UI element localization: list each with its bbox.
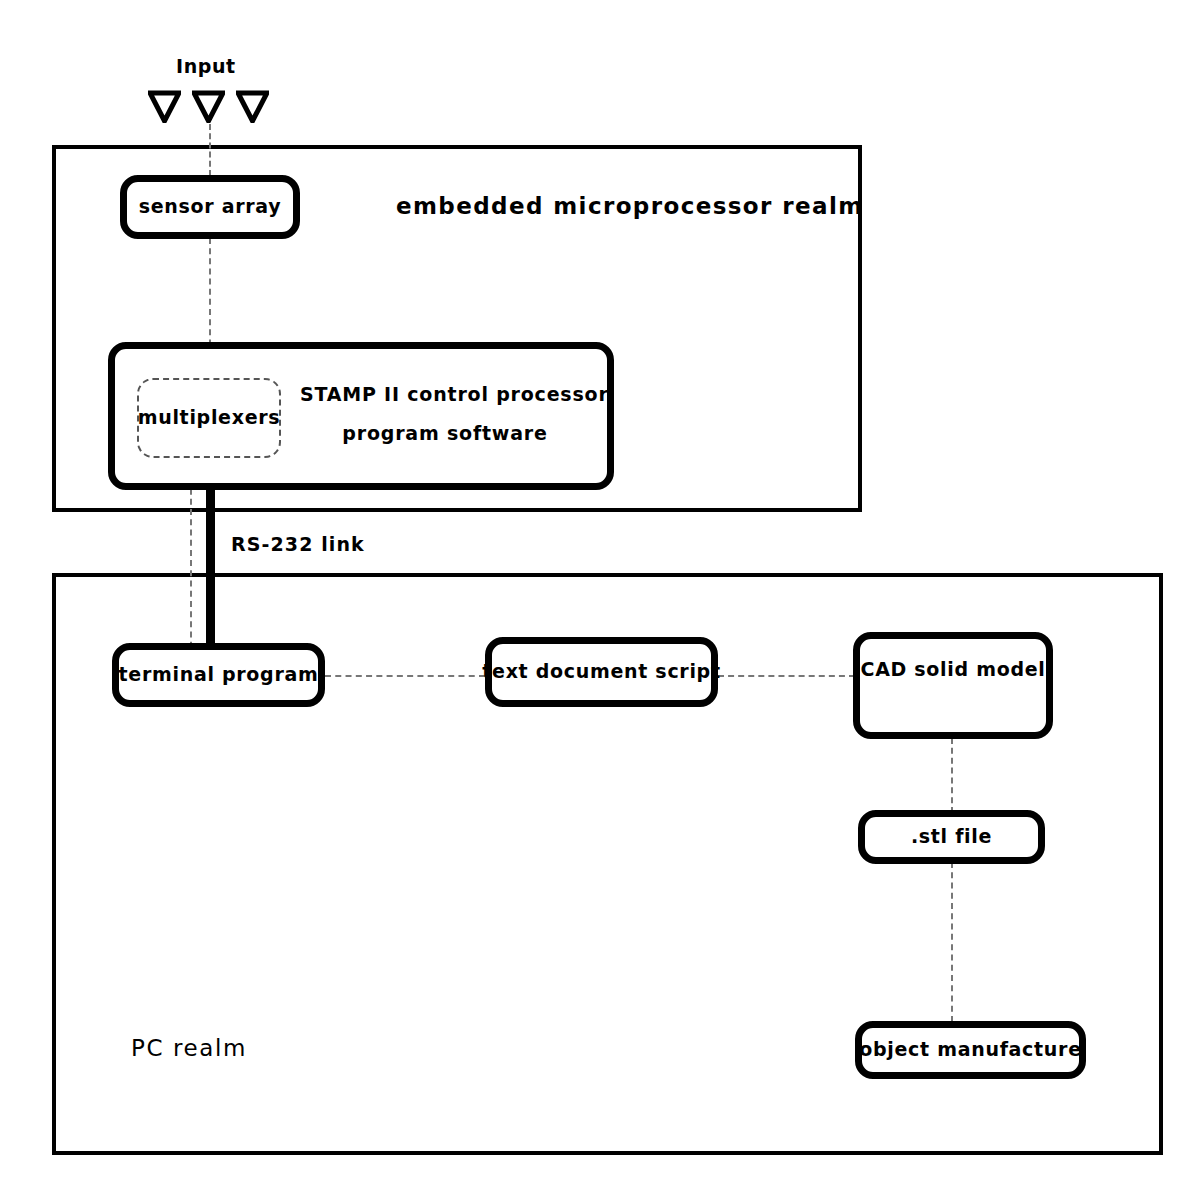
node-text-document-script-label: text document script	[482, 657, 720, 686]
node-object-manufacture-label: object manufacture	[859, 1035, 1082, 1064]
node-sensor-array[interactable]: sensor array	[120, 175, 300, 239]
node-multiplexers-label: multiplexers	[138, 403, 281, 432]
pc-realm-title: PC realm	[131, 1035, 247, 1061]
node-object-manufacture[interactable]: object manufacture	[855, 1021, 1086, 1079]
node-cad-solid-model[interactable]: CAD solid model	[853, 632, 1053, 739]
embedded-realm-title: embedded microprocessor realm	[396, 193, 864, 219]
connector-stl-to-manufacture	[951, 862, 953, 1022]
connector-terminal-to-script	[325, 675, 485, 677]
triangle-down-icon	[192, 90, 225, 123]
rs232-link-label: RS-232 link	[231, 533, 365, 555]
node-terminal-program[interactable]: terminal program	[112, 643, 325, 707]
triangle-down-icon	[236, 90, 269, 123]
stamp-line-2: program software	[300, 414, 590, 453]
rs232-link-line	[206, 488, 215, 660]
node-cad-solid-model-label: CAD solid model	[861, 655, 1046, 684]
input-marker-group	[148, 90, 269, 123]
node-text-document-script[interactable]: text document script	[485, 637, 718, 707]
diagram-canvas: Input embedded microprocessor realm sens…	[0, 0, 1204, 1195]
node-sensor-array-label: sensor array	[139, 192, 282, 221]
input-label: Input	[176, 55, 236, 77]
node-stl-file[interactable]: .stl file	[858, 810, 1045, 864]
stamp-line-1: STAMP II control processor	[300, 375, 590, 414]
stamp-processor-text: STAMP II control processor program softw…	[300, 375, 590, 453]
connector-script-to-cad	[718, 675, 855, 677]
connector-input-to-sensor	[209, 124, 211, 176]
triangle-down-icon	[148, 90, 181, 123]
node-multiplexers[interactable]: multiplexers	[137, 378, 281, 458]
node-stl-file-label: .stl file	[911, 822, 992, 851]
connector-cad-to-stl	[951, 738, 953, 813]
node-terminal-program-label: terminal program	[119, 660, 319, 689]
